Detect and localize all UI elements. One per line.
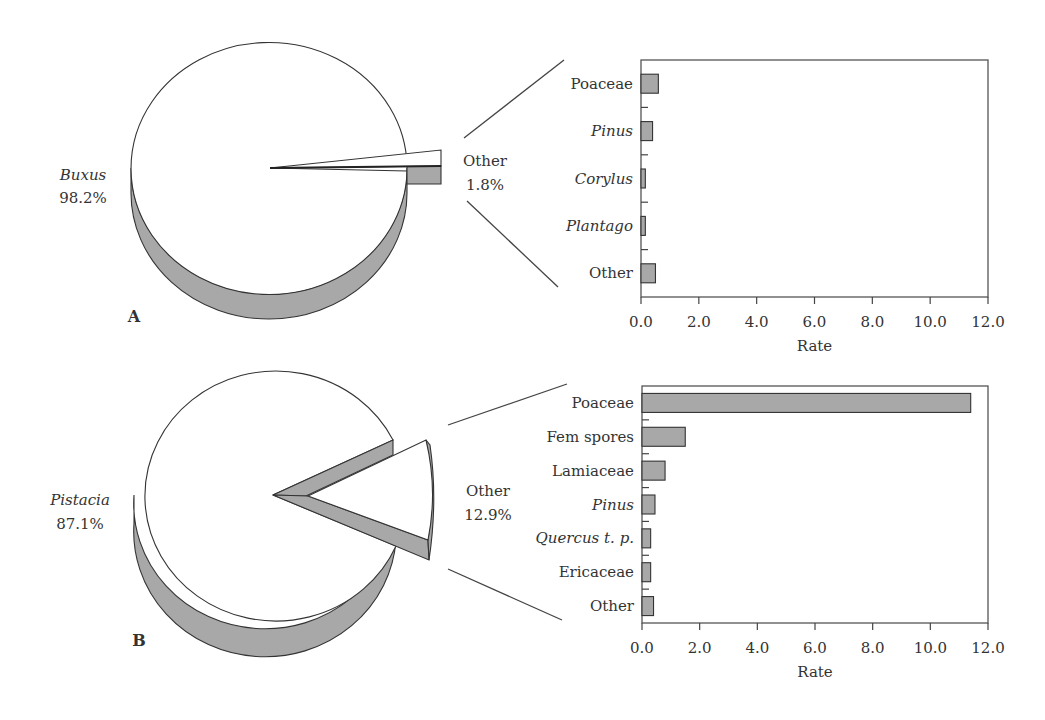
x-tick-label: 12.0	[971, 639, 1004, 657]
bar-other	[641, 264, 655, 283]
category-label: Poaceae	[571, 394, 634, 412]
pie-a-main-label: Buxus	[59, 166, 107, 184]
connector-b-lower	[448, 569, 562, 620]
category-label: Lamiaceae	[552, 462, 634, 480]
bar-chart-b: PoaceaeFem sporesLamiaceaePinusQuercus t…	[536, 386, 1005, 681]
x-tick-label: 4.0	[745, 639, 769, 657]
pie-b-other-label: Other	[466, 482, 511, 500]
x-axis-label: Rate	[797, 337, 833, 355]
bar-poaceae	[641, 74, 658, 93]
pie-chart-b	[134, 371, 434, 657]
x-axis-label: Rate	[797, 663, 833, 681]
figure: Buxus 98.2% Other 1.8% A PoaceaePinusCor…	[0, 0, 1045, 720]
category-label: Corylus	[575, 170, 634, 188]
bar-pinus	[642, 495, 655, 514]
pie-a-slice-other-side	[407, 166, 441, 184]
pie-b-main-label: Pistacia	[49, 491, 110, 509]
bar-chart-a: PoaceaePinusCorylusPlantagoOther0.02.04.…	[565, 60, 1005, 355]
category-label: Pinus	[590, 122, 633, 140]
bar-pinus	[641, 122, 653, 141]
pie-a-other-pct: 1.8%	[466, 176, 504, 194]
connector-a-lower	[467, 201, 558, 287]
bar-poaceae	[642, 393, 971, 412]
x-tick-label: 12.0	[971, 313, 1004, 331]
x-tick-label: 6.0	[803, 313, 827, 331]
category-label: Fem spores	[546, 428, 634, 446]
category-label: Pinus	[591, 496, 634, 514]
plot-frame	[642, 386, 988, 623]
category-label: Other	[589, 264, 634, 282]
bar-fem-spores	[642, 427, 685, 446]
category-label: Quercus t. p.	[536, 529, 634, 547]
bar-lamiaceae	[642, 461, 665, 480]
pie-b-other-pct: 12.9%	[464, 506, 512, 524]
x-tick-label: 2.0	[687, 313, 711, 331]
connector-a-upper	[464, 60, 564, 138]
bar-quercus-t-p	[642, 529, 651, 548]
category-label: Other	[590, 597, 635, 615]
category-label: Plantago	[565, 217, 633, 235]
x-tick-label: 10.0	[914, 639, 947, 657]
x-tick-label: 4.0	[745, 313, 769, 331]
plot-frame	[641, 60, 988, 297]
category-label: Poaceae	[570, 75, 633, 93]
bar-plantago	[641, 216, 645, 235]
pie-a-slice-buxus	[131, 43, 407, 295]
bar-ericaceae	[642, 563, 651, 582]
x-tick-label: 2.0	[688, 639, 712, 657]
panel-label-a: A	[127, 307, 141, 326]
x-tick-label: 10.0	[913, 313, 946, 331]
pie-b-main-pct: 87.1%	[56, 515, 104, 533]
x-tick-label: 8.0	[860, 313, 884, 331]
panel-label-b: B	[132, 631, 146, 650]
bar-corylus	[641, 169, 645, 188]
x-tick-label: 0.0	[630, 639, 654, 657]
pie-chart-a	[131, 43, 441, 320]
x-tick-label: 0.0	[629, 313, 653, 331]
x-tick-label: 8.0	[861, 639, 885, 657]
pie-a-other-label: Other	[463, 152, 508, 170]
connector-b-upper	[448, 384, 567, 425]
x-tick-label: 6.0	[803, 639, 827, 657]
pie-a-main-pct: 98.2%	[59, 189, 107, 207]
bar-other	[642, 597, 654, 616]
category-label: Ericaceae	[559, 563, 634, 581]
